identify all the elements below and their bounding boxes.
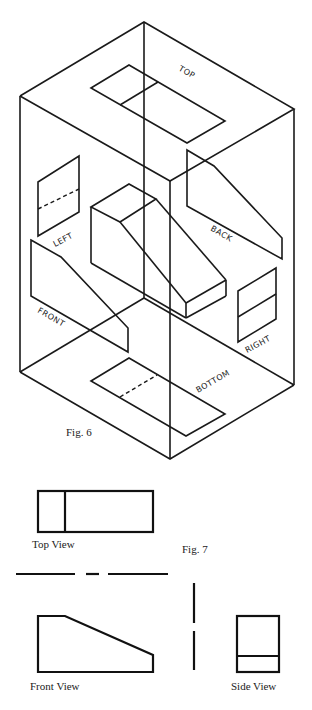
label-top: TOP xyxy=(176,63,197,80)
top-plane-projection: TOP xyxy=(91,63,225,143)
side-view xyxy=(237,616,279,672)
right-plane-projection: RIGHT xyxy=(238,268,276,355)
label-right: RIGHT xyxy=(244,334,273,355)
top-view xyxy=(38,491,153,532)
fig6-caption: Fig. 6 xyxy=(66,426,92,438)
fig7-caption: Fig. 7 xyxy=(182,543,208,555)
label-back: BACK xyxy=(209,224,234,244)
top-view-label: Top View xyxy=(32,538,75,550)
front-view-label: Front View xyxy=(30,680,80,692)
front-view xyxy=(38,616,153,672)
drawing-canvas: TOP LEFT BACK FRONT RIGHT BOTTOM xyxy=(0,0,312,710)
side-view-label: Side View xyxy=(231,680,276,692)
left-plane-projection: LEFT xyxy=(38,156,79,249)
wedge-object xyxy=(91,184,226,318)
label-left: LEFT xyxy=(52,231,75,249)
label-bottom: BOTTOM xyxy=(195,368,232,395)
bottom-plane-projection: BOTTOM xyxy=(91,358,231,436)
back-plane-projection: BACK xyxy=(187,150,282,259)
front-plane-projection: FRONT xyxy=(31,240,128,352)
label-front: FRONT xyxy=(36,306,66,329)
